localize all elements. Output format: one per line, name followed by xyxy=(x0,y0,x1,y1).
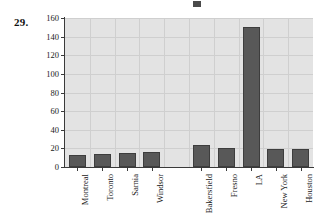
x-axis-tick-mark xyxy=(301,168,302,171)
bar xyxy=(267,149,284,167)
plot-area xyxy=(65,18,313,167)
x-axis-category-label: Houston xyxy=(305,174,314,203)
y-axis-tick-label: 80 xyxy=(51,89,60,98)
y-axis-tick-mark xyxy=(61,18,65,19)
x-axis-tick-mark xyxy=(102,168,103,171)
x-axis-tick-mark xyxy=(226,168,227,171)
y-axis-tick-mark xyxy=(61,37,65,38)
x-axis-category-label: Toronto xyxy=(106,174,115,201)
vertical-gridline xyxy=(164,18,165,167)
cut-off-text-fragment xyxy=(193,1,201,7)
y-axis-tick-label: 60 xyxy=(51,107,60,116)
vertical-gridline xyxy=(90,18,91,167)
y-axis-tick-mark xyxy=(61,167,65,168)
x-axis-tick-mark xyxy=(152,168,153,171)
y-axis-tick-mark xyxy=(61,55,65,56)
y-axis-tick-label: 120 xyxy=(46,51,59,60)
vertical-gridline xyxy=(189,18,190,167)
x-axis-category-label: Windsor xyxy=(156,174,165,203)
y-axis-tick-mark xyxy=(61,148,65,149)
bar xyxy=(94,154,111,167)
vertical-gridline xyxy=(239,18,240,167)
y-axis-tick-mark xyxy=(61,130,65,131)
bar xyxy=(243,27,260,167)
x-axis-tick-mark xyxy=(77,168,78,171)
y-axis-tick-label: 20 xyxy=(51,144,60,153)
y-axis-tick-label: 100 xyxy=(46,70,59,79)
x-axis-category-label: Bakersfield xyxy=(205,174,214,213)
bar xyxy=(292,149,309,167)
x-axis-category-label: New York xyxy=(280,174,289,208)
x-axis-tick-mark xyxy=(276,168,277,171)
y-axis-tick-mark xyxy=(61,111,65,112)
x-axis-category-label: Montreal xyxy=(81,174,90,205)
bar xyxy=(143,152,160,167)
vertical-gridline xyxy=(288,18,289,167)
y-axis-tick-label: 140 xyxy=(46,33,59,42)
x-axis-tick-mark xyxy=(127,168,128,171)
y-axis-tick-labels: 020406080100120140160 xyxy=(35,0,59,224)
y-axis-tick-label: 40 xyxy=(51,126,60,135)
bar-chart-figure: 29. 020406080100120140160 MontrealToront… xyxy=(0,0,334,224)
x-axis-tick-mark xyxy=(251,168,252,171)
bar xyxy=(69,155,86,167)
x-axis-tick-mark xyxy=(201,168,202,171)
vertical-gridline xyxy=(115,18,116,167)
x-axis-category-label: Fresno xyxy=(230,174,239,197)
vertical-gridline xyxy=(139,18,140,167)
x-axis-category-label: Sarnia xyxy=(131,174,140,196)
bar xyxy=(193,145,210,167)
bar xyxy=(218,148,235,167)
bar xyxy=(119,153,136,167)
y-axis-tick-label: 160 xyxy=(46,14,59,23)
vertical-gridline xyxy=(214,18,215,167)
y-axis-tick-mark xyxy=(61,74,65,75)
x-axis-category-label: LA xyxy=(255,174,264,185)
problem-number-label: 29. xyxy=(14,16,28,28)
y-axis-tick-mark xyxy=(61,93,65,94)
vertical-gridline xyxy=(263,18,264,167)
y-axis-tick-label: 0 xyxy=(55,163,59,172)
